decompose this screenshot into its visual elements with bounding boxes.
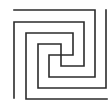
spiral-b-path — [14, 10, 106, 98]
interlocking-spiral-diagram — [0, 0, 112, 101]
diagram-svg — [0, 0, 112, 101]
